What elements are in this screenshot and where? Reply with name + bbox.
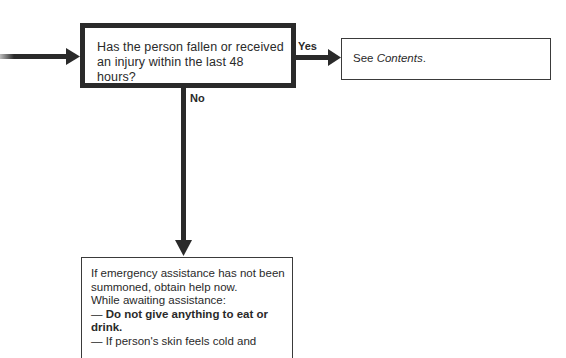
action-bullet-no-food: — Do not give anything to eat or drink.	[91, 308, 286, 335]
no-label: No	[190, 92, 205, 104]
emergency-action-box: If emergency assistance has not been sum…	[81, 257, 293, 358]
action-bullet-skin-cold: — If person's skin feels cold and	[91, 335, 286, 349]
action-line-awaiting: While awaiting assistance:	[91, 294, 286, 308]
contents-link: Contents	[377, 52, 423, 64]
yes-arrow-head-icon	[328, 49, 341, 66]
question-text: Has the person fallen or received an inj…	[97, 40, 285, 85]
dash: —	[91, 308, 106, 320]
see-prefix: See	[353, 52, 377, 64]
action-line-summon: If emergency assistance has not been sum…	[91, 267, 286, 294]
yes-label: Yes	[298, 40, 317, 52]
see-contents-text: See Contents.	[353, 52, 426, 64]
no-arrow-line	[181, 88, 186, 242]
no-food-warning: Do not give anything to eat or drink.	[91, 308, 268, 334]
incoming-arrow-head-icon	[66, 48, 80, 65]
yes-arrow-line	[296, 55, 330, 60]
emergency-action-text: If emergency assistance has not been sum…	[91, 267, 286, 348]
see-suffix: .	[423, 52, 426, 64]
no-arrow-head-icon	[175, 240, 192, 256]
incoming-arrow-line	[0, 54, 68, 59]
question-box: Has the person fallen or received an inj…	[80, 23, 296, 88]
see-contents-box: See Contents.	[341, 38, 551, 80]
